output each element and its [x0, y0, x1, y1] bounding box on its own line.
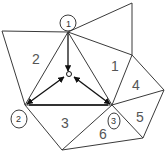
region-label-3: 3: [61, 115, 69, 131]
centroid-marker: [67, 72, 72, 77]
vertex-label-3: 3: [111, 116, 116, 126]
centroid-arrows: [27, 33, 110, 105]
vertex-label-2: 2: [16, 114, 21, 124]
vertex-label-1: 1: [66, 19, 71, 29]
region-label-1: 1: [111, 58, 119, 74]
region-label-6: 6: [99, 126, 107, 142]
region-label-5: 5: [136, 109, 144, 125]
region-label-4: 4: [132, 77, 140, 93]
mesh-diagram: 1 2 3 1 2 3 4 5 6: [0, 0, 165, 153]
region-label-2: 2: [32, 51, 40, 67]
